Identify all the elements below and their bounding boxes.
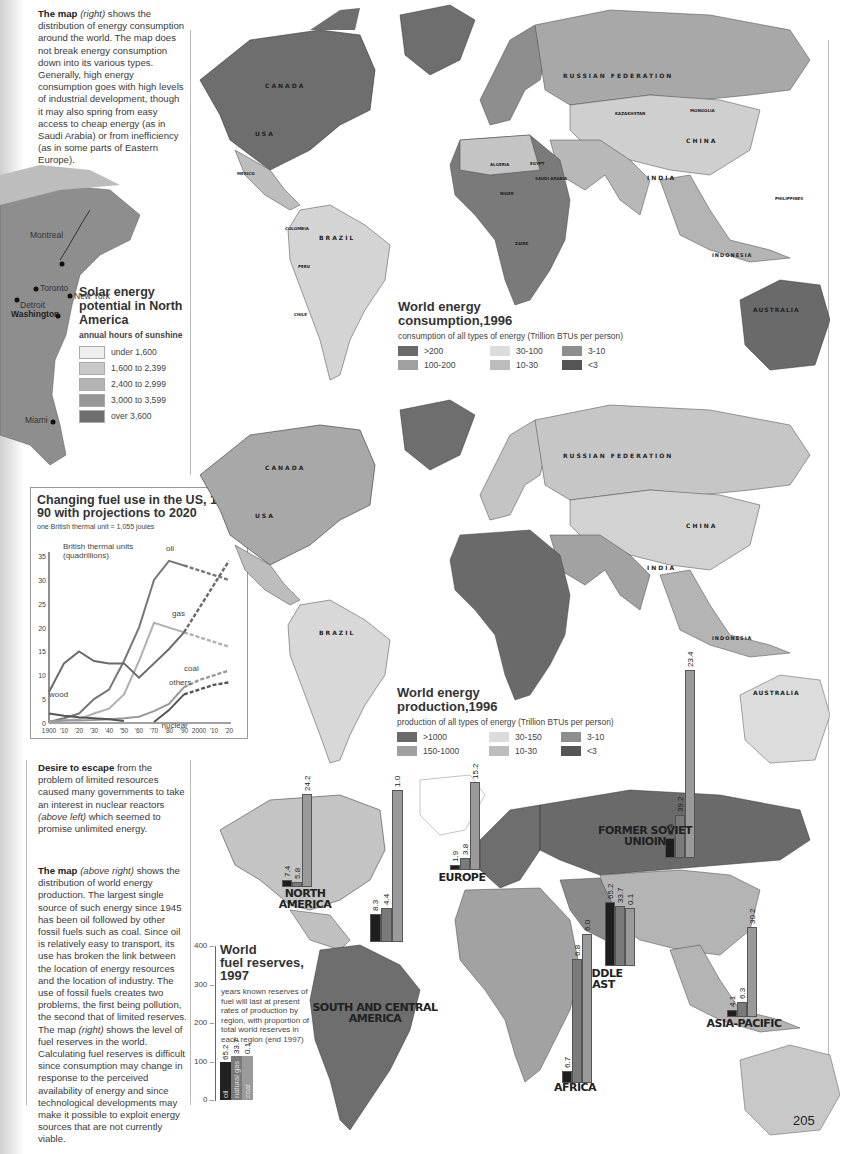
x-tick-label: '50 <box>120 727 129 734</box>
svg-text:BRAZIL: BRAZIL <box>319 629 355 636</box>
intro-paragraph: The map (right) shows the distribution o… <box>38 8 186 167</box>
consumption-legend-item: 100-200 <box>398 358 490 372</box>
svg-text:RUSSIAN FEDERATION: RUSSIAN FEDERATION <box>563 452 673 459</box>
production-swatch <box>397 732 417 742</box>
reserves-bar-gas <box>615 906 625 966</box>
x-tick-label: '20 <box>75 727 84 734</box>
production-legend-items: >100030-1503-10150-100010-30<3 <box>397 730 627 758</box>
reserves-subtitle: years known reserves of fuel will last a… <box>221 987 317 1044</box>
reserves-bar-value: 6.3 <box>738 988 747 999</box>
x-tick-label: '60 <box>135 727 144 734</box>
reserves-bar-oil <box>370 914 381 942</box>
y-tick-label: 35 <box>38 553 46 560</box>
production-legend-title: World energy production,1996 <box>397 686 627 714</box>
solar-legend-subtitle: annual hours of sunshine <box>79 330 189 340</box>
svg-text:AUSTRALIA: AUSTRALIA <box>753 306 800 313</box>
consumption-legend-item: <3 <box>562 358 622 372</box>
production-legend-label: 30-150 <box>515 732 542 742</box>
reserves-bar-gas <box>460 858 470 870</box>
solar-legend-title: Solar energy potential in North America <box>79 285 189 327</box>
reserves-bar-value: 5.8 <box>293 868 302 879</box>
svg-text:NIGER: NIGER <box>500 191 514 196</box>
x-tick-label: '40 <box>105 727 114 734</box>
svg-text:MONGOLIA: MONGOLIA <box>690 108 715 113</box>
x-tick-label: '70 <box>150 727 159 734</box>
reserves-axis-line <box>215 946 216 1101</box>
reserves-key-fuel-label: natural gas <box>232 1061 241 1098</box>
y-tick-label: 20 <box>38 625 46 632</box>
reserves-bar-value: 6.7 <box>563 1057 572 1068</box>
reserves-axis-tick: 200 – <box>192 1018 214 1027</box>
production-legend-label: >1000 <box>423 732 447 742</box>
city-toronto: Toronto <box>40 283 68 293</box>
consumption-swatch <box>490 360 510 370</box>
production-body1: shows the distribution of world energy p… <box>38 865 187 1035</box>
solar-swatch <box>79 378 105 391</box>
intro-body: shows the distribution of energy consump… <box>38 8 184 165</box>
reserves-bar-coal <box>392 790 403 942</box>
label-canada: CANADA <box>265 82 305 89</box>
solar-swatch <box>79 410 105 423</box>
reserves-axis-tick: 400 – <box>192 941 214 950</box>
reserves-bar-oil <box>605 902 615 966</box>
svg-text:KAZAKHSTAN: KAZAKHSTAN <box>615 111 645 116</box>
production-swatch <box>561 746 581 756</box>
reserves-bar-oil <box>282 880 292 887</box>
consumption-legend-item: >200 <box>398 344 490 358</box>
reserves-bar-gas <box>572 959 582 1083</box>
reserves-bar-value: 65.2 <box>606 883 615 899</box>
fuel-chart-subtitle: one British thermal unit = 1,055 joules <box>37 523 154 530</box>
reserves-axis-tick: 0 – <box>192 1095 214 1104</box>
solar-swatch <box>79 394 105 407</box>
y-tick-label: 30 <box>38 577 46 584</box>
reserves-key-fuel-label: coal <box>243 1084 252 1098</box>
intro-lead: The map <box>38 8 77 19</box>
series-coal-line <box>49 632 184 692</box>
reserves-bar-value: 7.4 <box>283 866 292 877</box>
solar-legend: Solar energy potential in North America … <box>79 285 189 424</box>
column-divider-left <box>26 760 27 1105</box>
reserves-legend: 400 –300 –200 –100 –0 – World fuel reser… <box>192 943 372 1103</box>
series-label-gas: gas <box>172 609 185 618</box>
consumption-legend-item: 10-30 <box>490 358 562 372</box>
consumption-legend-label: 3-10 <box>588 346 605 356</box>
solar-legend-label: over 3,600 <box>111 411 152 421</box>
svg-text:INDONESIA: INDONESIA <box>712 635 752 641</box>
svg-text:INDONESIA: INDONESIA <box>712 252 752 258</box>
solar-legend-item: 3,000 to 3,599 <box>79 392 189 408</box>
consumption-legend-label: >200 <box>424 346 443 356</box>
reserves-region-label: FORMER SOVIET UNIOIN <box>590 825 700 847</box>
reserves-bar-value: 6.8 <box>573 945 582 956</box>
city-washington: Washington <box>11 309 59 319</box>
reserves-region-label: NORTH AMERICA <box>270 888 340 910</box>
y-tick-label: 10 <box>38 672 46 679</box>
svg-text:CHINA: CHINA <box>686 137 717 144</box>
production-legend-label: 150-1000 <box>423 746 459 756</box>
nuclear-caption: Desire to escape from the problem of lim… <box>38 762 188 835</box>
production-lead-italic: (above right) <box>80 865 134 876</box>
svg-text:INDIA: INDIA <box>647 564 676 571</box>
y-tick-label: 15 <box>38 648 46 655</box>
solar-legend-label: 1,600 to 2,399 <box>111 363 166 373</box>
production-body2: shows the level of fuel reserves in the … <box>38 1024 185 1145</box>
consumption-legend-label: 10-30 <box>516 360 538 370</box>
reserves-bar-value: 8.3 <box>371 900 380 911</box>
consumption-swatch <box>398 360 418 370</box>
production-swatch <box>489 746 509 756</box>
consumption-title-line1: World energy <box>398 300 628 314</box>
consumption-title-line2: consumption,1996 <box>398 314 628 328</box>
production-caption: The map (above right) shows the distribu… <box>38 865 188 1146</box>
production-legend-item: 150-1000 <box>397 744 489 758</box>
production-legend-item: 10-30 <box>489 744 561 758</box>
production-italic2: (right) <box>79 1024 104 1035</box>
svg-text:ZAIRE: ZAIRE <box>515 241 529 246</box>
y-tick-label: 0 <box>42 720 46 727</box>
consumption-swatch <box>562 360 582 370</box>
solar-legend-label: 3,000 to 3,599 <box>111 395 166 405</box>
y-tick-label: 5 <box>42 696 46 703</box>
reserves-bar-value: 23.4 <box>686 651 695 667</box>
city-montreal: Montreal <box>30 230 63 240</box>
consumption-legend-subtitle: consumption of all types of energy (Tril… <box>398 331 628 341</box>
solar-legend-label: under 1,600 <box>111 347 157 357</box>
reserves-bar-oil <box>450 865 460 870</box>
